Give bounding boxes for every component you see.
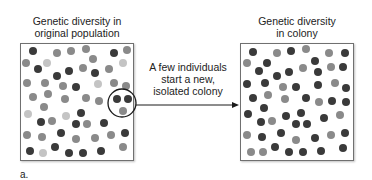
allele-dot — [314, 68, 322, 76]
allele-dot — [279, 83, 287, 91]
caption-line3: isolated colony — [144, 85, 232, 97]
allele-dot — [247, 148, 255, 156]
allele-dot — [264, 91, 272, 99]
allele-dot — [67, 47, 75, 55]
allele-dot — [94, 80, 102, 88]
allele-dot — [249, 48, 257, 56]
allele-dot — [285, 68, 293, 76]
allele-dot — [29, 93, 37, 101]
allele-dot — [23, 131, 31, 139]
allele-dot — [327, 131, 335, 139]
allele-dot — [82, 94, 90, 102]
allele-dot — [302, 94, 310, 102]
allele-dot — [121, 129, 129, 137]
allele-dot — [48, 117, 56, 125]
allele-dot — [287, 47, 295, 55]
allele-dot — [285, 148, 293, 156]
allele-dot — [40, 103, 48, 111]
allele-dot — [282, 112, 290, 120]
allele-dot — [24, 110, 32, 118]
allele-dot — [82, 45, 90, 53]
allele-dot — [34, 65, 42, 73]
allele-dot — [59, 82, 67, 90]
allele-dot — [113, 95, 121, 103]
allele-dot — [72, 120, 80, 128]
allele-dot — [277, 129, 285, 137]
allele-dot — [65, 149, 73, 157]
allele-dot — [44, 90, 52, 98]
allele-dot — [62, 112, 70, 120]
allele-dot — [53, 72, 61, 80]
allele-dot — [243, 80, 251, 88]
allele-dot — [26, 147, 34, 155]
allele-dot — [72, 135, 80, 143]
allele-dot — [110, 79, 118, 87]
allele-dot — [339, 144, 347, 152]
allele-dot — [339, 63, 347, 71]
allele-dot — [341, 49, 349, 57]
arrow-head-icon — [232, 102, 239, 108]
allele-dot — [119, 59, 127, 67]
allele-dot — [325, 49, 333, 57]
allele-dot — [29, 47, 37, 55]
allele-dot — [292, 83, 300, 91]
allele-dot — [261, 79, 269, 87]
original-population-dots — [22, 45, 132, 157]
allele-dot — [259, 148, 267, 156]
allele-dot — [243, 131, 251, 139]
allele-dot — [124, 95, 132, 103]
allele-dot — [341, 129, 349, 137]
allele-dot — [311, 57, 319, 65]
allele-dot — [110, 49, 118, 57]
allele-dot — [61, 95, 69, 103]
allele-dot — [37, 118, 45, 126]
allele-dot — [303, 120, 311, 128]
allele-dot — [249, 94, 257, 102]
allele-dot — [119, 143, 127, 151]
allele-dot — [297, 109, 305, 117]
allele-dot — [105, 65, 113, 73]
allele-dot — [91, 69, 99, 77]
allele-dot — [342, 98, 350, 106]
allele-dot — [43, 59, 51, 67]
allele-dot — [328, 97, 336, 105]
allele-dot — [327, 63, 335, 71]
allele-dot — [83, 120, 91, 128]
allele-dot — [91, 134, 99, 142]
allele-dot — [292, 120, 300, 128]
allele-dot — [100, 119, 108, 127]
allele-dot — [331, 79, 339, 87]
caption-line1: A few individuals — [144, 61, 232, 73]
allele-dot — [257, 118, 265, 126]
allele-dot — [314, 81, 322, 89]
colony-dots — [243, 45, 350, 156]
allele-dot — [38, 133, 46, 141]
allele-dot — [65, 67, 73, 75]
allele-dot — [79, 149, 87, 157]
allele-dot — [342, 84, 350, 92]
allele-dot — [299, 64, 307, 72]
allele-dot — [107, 131, 115, 139]
allele-dot — [39, 149, 47, 157]
allele-dot — [268, 117, 276, 125]
allele-dot — [336, 111, 344, 119]
allele-dot — [23, 79, 31, 87]
allele-dot — [95, 97, 103, 105]
allele-dot — [51, 143, 59, 151]
caption-line2: start a new, — [144, 73, 232, 85]
arrow-caption: A few individuals start a new, isolated … — [144, 61, 232, 97]
allele-dot — [72, 83, 80, 91]
allele-dot — [77, 109, 85, 117]
allele-dot — [244, 110, 252, 118]
allele-dot — [123, 46, 131, 54]
allele-dot — [97, 147, 105, 155]
allele-dot — [311, 134, 319, 142]
allele-dot — [22, 59, 30, 67]
allele-dot — [255, 67, 263, 75]
allele-dot — [273, 49, 281, 57]
allele-dot — [258, 133, 266, 141]
allele-dot — [260, 104, 268, 112]
allele-dot — [315, 98, 323, 106]
allele-dot — [89, 55, 97, 63]
allele-dot — [243, 59, 251, 67]
